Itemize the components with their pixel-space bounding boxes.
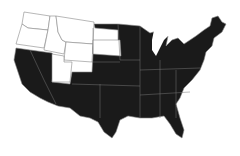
us-map [0,0,240,156]
state-south-dakota [93,40,121,56]
state-montana [56,16,94,44]
state-wyoming [64,42,93,62]
